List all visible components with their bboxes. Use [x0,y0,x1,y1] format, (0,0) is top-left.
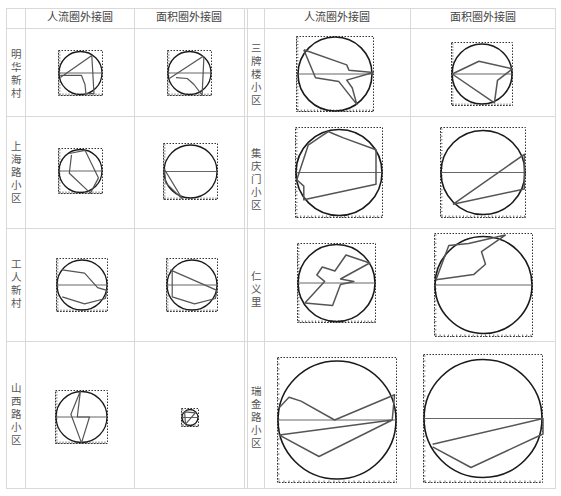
table-mid-divider-a [244,8,245,489]
minghua-area-diagram [167,50,212,96]
range-polygon [170,270,217,304]
row-label-sanpailou: 三牌楼小区 [249,42,263,107]
range-polygon [436,235,505,280]
range-polygon [279,395,394,457]
row-label-shanxilu: 山西路小区 [9,382,23,447]
sanpailou-area-diagram [451,42,513,106]
renyili-flow-diagram [297,243,376,323]
row-label-ruijinlu: 瑞金路小区 [249,385,263,450]
col-divider-left [134,8,135,489]
ruijin-flow-diagram [277,357,397,483]
range-polygon [305,255,370,305]
header-left-area-circle: 面积圈外接圆 [134,8,244,28]
col-divider-right [410,8,411,489]
jiqing-area-diagram [440,127,526,218]
header-right-flow-circle: 人流圈外接圆 [264,8,410,28]
label-col-divider-left [25,8,26,489]
range-polygon [453,154,524,204]
header-left-flow-circle: 人流圈外接圆 [25,8,134,28]
gongren-flow-diagram [56,258,108,312]
minghua-flow-diagram [58,50,103,96]
table-left-border [6,8,7,489]
label-col-divider-right [264,8,265,489]
table-bottom-border [6,488,555,489]
ruijin-area-diagram [423,354,543,483]
sanpailou-flow-diagram [296,36,374,112]
gongren-area-diagram [166,258,218,312]
row-label-jiqingmen: 集庆门小区 [249,147,263,212]
row-divider-3 [6,341,555,342]
header-right-area-circle: 面积圈外接圆 [410,8,555,28]
table-right-border [555,8,556,489]
range-polygon [69,150,98,193]
range-polygon [62,270,107,304]
renyili-area-diagram [434,233,533,337]
range-polygon [185,412,196,424]
shanxi-area-diagram [181,408,199,427]
shanghai-flow-diagram [58,148,103,194]
header-bottom-border [6,28,555,29]
range-polygon [164,169,182,199]
row-divider-2 [6,228,555,229]
row-label-gongren: 工人新村 [9,258,23,310]
row-divider-1 [6,116,555,117]
range-polygon [169,57,204,95]
range-polygon [304,50,373,105]
jiqing-flow-diagram [295,127,383,218]
range-polygon [433,419,543,468]
row-label-minghua: 明华新村 [9,48,23,100]
shanxi-flow-diagram [55,390,108,444]
table-mid-divider-b [247,8,248,489]
shanghai-area-diagram [163,143,218,200]
row-label-renyili: 仁义里 [249,270,263,309]
row-label-shanghailu: 上海路小区 [9,140,23,205]
